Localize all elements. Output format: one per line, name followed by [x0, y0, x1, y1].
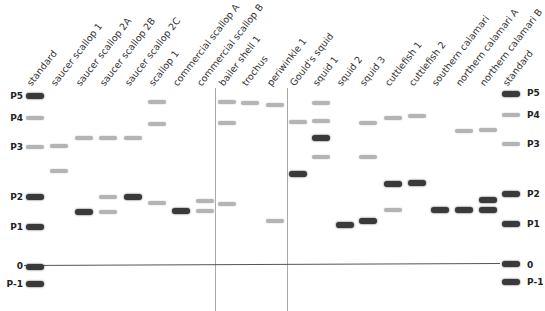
gel-band [196, 209, 214, 213]
position-label-left: P5 [10, 91, 23, 101]
gel-band [289, 120, 307, 124]
gel-band [502, 191, 520, 197]
gel-band [336, 222, 354, 228]
gel-band [124, 136, 142, 140]
gel-band [479, 128, 497, 132]
position-label-left: 0 [17, 261, 23, 271]
gel-band [502, 221, 520, 227]
gel-band [26, 194, 44, 200]
gel-band [266, 219, 284, 223]
position-label-left: P3 [10, 142, 23, 152]
gel-band [266, 103, 284, 107]
gel-band [124, 194, 142, 200]
gel-band [26, 264, 44, 270]
gel-band [312, 155, 330, 159]
gel-band [502, 113, 520, 117]
gel-band [431, 207, 449, 213]
gel-band [50, 144, 68, 148]
gel-band [359, 155, 377, 159]
position-label-left: P1 [10, 222, 23, 232]
gel-band [99, 210, 117, 214]
gel-band [26, 281, 44, 287]
gel-band [384, 116, 402, 120]
position-label-right: 0 [527, 260, 533, 270]
gel-band [312, 135, 330, 141]
position-label-right: P1 [527, 219, 540, 229]
gel-band [26, 224, 44, 230]
gel-band [408, 114, 426, 118]
gel-band [502, 279, 520, 285]
gel-band [408, 180, 426, 186]
gel-band [359, 121, 377, 125]
gel-band [479, 197, 497, 203]
gel-band [218, 121, 236, 125]
gel-band [99, 136, 117, 140]
position-label-right: P-1 [527, 277, 543, 287]
position-label-right: P3 [527, 139, 540, 149]
gel-band [479, 207, 497, 213]
position-label-left: P4 [10, 113, 23, 123]
gel-band [384, 181, 402, 187]
position-label-right: P2 [527, 189, 540, 199]
gel-band [359, 218, 377, 224]
gel-band [172, 208, 190, 214]
gel-band [455, 129, 473, 133]
gel-band [502, 91, 520, 97]
gel-band [196, 199, 214, 203]
gel-band [148, 100, 166, 104]
position-label-left: P-1 [7, 279, 23, 289]
gel-band [384, 208, 402, 212]
gel-band [312, 101, 330, 105]
position-label-right: P5 [527, 88, 540, 98]
baseline-line [24, 263, 500, 266]
gel-band [455, 207, 473, 213]
position-label-right: P4 [527, 110, 540, 120]
lane-divider-line [287, 88, 288, 311]
lane-divider-line [215, 88, 216, 311]
gel-band [218, 100, 236, 104]
gel-band [218, 202, 236, 206]
position-label-left: P2 [10, 192, 23, 202]
gel-band [148, 201, 166, 205]
gel-band [312, 119, 330, 123]
gel-band [75, 209, 93, 215]
gel-band [289, 171, 307, 177]
gel-band [241, 101, 259, 105]
gel-band [99, 195, 117, 199]
gel-band [26, 145, 44, 149]
gel-band [26, 116, 44, 120]
gel-band [148, 122, 166, 126]
gel-diagram: standardsaucer scallop 1saucer scallop 2… [0, 0, 545, 311]
gel-band [50, 169, 68, 173]
gel-band [75, 136, 93, 140]
gel-band [502, 261, 520, 267]
gel-band [26, 93, 44, 99]
gel-band [502, 142, 520, 146]
